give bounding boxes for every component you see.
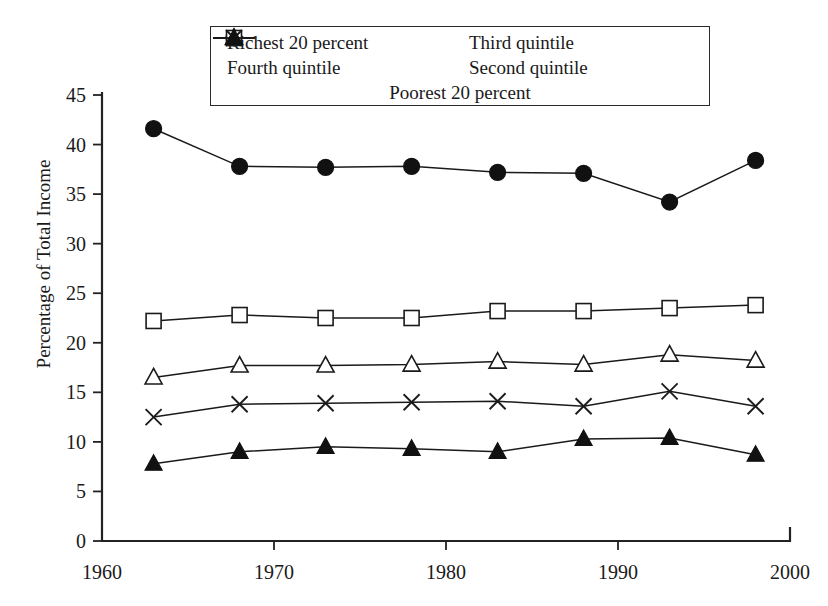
marker-filled-triangle (226, 29, 243, 45)
legend-row: Richest 20 percentThird quintile (211, 30, 709, 55)
x-tick-label: 2000 (770, 561, 810, 583)
marker-open-square (490, 304, 505, 319)
marker-open-triangle (747, 352, 764, 368)
marker-open-triangle (231, 357, 248, 373)
chart-figure: Percentage of Total Income 0510152025303… (0, 0, 828, 606)
marker-open-square (146, 313, 161, 328)
y-tick-label: 0 (76, 530, 86, 552)
x-tick-label: 1970 (254, 561, 294, 583)
y-tick-label: 10 (66, 431, 86, 453)
series-3 (145, 346, 764, 384)
series-5 (145, 429, 764, 470)
y-tick-label: 15 (66, 381, 86, 403)
legend-item[interactable]: Third quintile (469, 32, 709, 54)
marker-open-triangle (403, 356, 420, 372)
series-1 (146, 121, 764, 210)
marker-filled-circle (576, 165, 592, 181)
marker-open-square (232, 308, 247, 323)
marker-open-square (576, 304, 591, 319)
legend-item[interactable]: Fourth quintile (211, 57, 469, 79)
plot-axes (102, 92, 790, 541)
y-tick-label: 35 (66, 183, 86, 205)
marker-filled-circle (748, 152, 764, 168)
x-tick-label: 1990 (598, 561, 638, 583)
marker-open-square (662, 301, 677, 316)
legend-item-label: Poorest 20 percent (389, 82, 530, 104)
y-tick-label: 45 (66, 84, 86, 106)
legend-item-label: Third quintile (469, 32, 574, 54)
chart-legend: Richest 20 percentThird quintileFourth q… (210, 26, 710, 106)
x-tick-label: 1980 (426, 561, 466, 583)
y-tick-label: 5 (76, 480, 86, 502)
legend-row: Poorest 20 percent (211, 80, 709, 105)
series-2 (146, 298, 763, 329)
legend-row: Fourth quintileSecond quintile (211, 55, 709, 80)
legend-item[interactable]: Second quintile (469, 57, 709, 79)
marker-filled-triangle (317, 438, 334, 454)
marker-filled-triangle (661, 429, 678, 445)
marker-open-square (318, 311, 333, 326)
marker-filled-circle (662, 194, 678, 210)
x-tick-label: 1960 (82, 561, 122, 583)
marker-open-triangle (317, 357, 334, 373)
legend-item-label: Second quintile (469, 57, 588, 79)
marker-filled-triangle (575, 430, 592, 446)
y-tick-label: 25 (66, 282, 86, 304)
marker-open-square (748, 298, 763, 313)
marker-filled-circle (490, 164, 506, 180)
legend-item[interactable]: Poorest 20 percent (389, 82, 530, 104)
marker-filled-triangle (231, 443, 248, 459)
marker-open-triangle (489, 353, 506, 369)
y-tick-label: 20 (66, 332, 86, 354)
y-tick-label: 30 (66, 233, 86, 255)
marker-filled-circle (146, 121, 162, 137)
legend-item-label: Fourth quintile (227, 57, 340, 79)
marker-filled-circle (404, 158, 420, 174)
y-tick-label: 40 (66, 134, 86, 156)
marker-filled-circle (232, 158, 248, 174)
marker-filled-triangle (403, 440, 420, 456)
marker-filled-circle (318, 159, 334, 175)
legend-symbol-filled-triangle (211, 27, 257, 49)
series-4 (146, 383, 764, 425)
marker-open-square (404, 311, 419, 326)
marker-open-triangle (661, 346, 678, 362)
